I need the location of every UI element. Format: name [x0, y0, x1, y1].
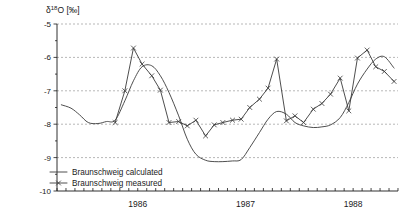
y-tick-label--5: -5: [44, 20, 52, 29]
legend-label: Braunschweig measured: [72, 179, 163, 188]
x-tick-label-1987: 1987: [236, 199, 255, 209]
x-tick-label-1988: 1988: [344, 199, 363, 209]
delta-o18-line-chart: -5-6-7-8-9-10 198619871988 δ18O [‰] Brau…: [0, 0, 403, 222]
y-tick-label--9: -9: [44, 154, 52, 163]
y-tick-label--10: -10: [39, 187, 51, 196]
x-tick-label-1986: 1986: [128, 199, 147, 209]
legend-label: Braunschweig calculated: [72, 168, 163, 177]
y-tick-label--7: -7: [44, 87, 52, 96]
chart-background: [0, 0, 403, 222]
chart-container: -5-6-7-8-9-10 198619871988 δ18O [‰] Brau…: [0, 0, 403, 222]
y-tick-label--6: -6: [44, 53, 52, 62]
y-tick-label--8: -8: [44, 120, 52, 129]
